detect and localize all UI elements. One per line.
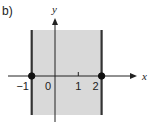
y-axis-arrow-icon (52, 18, 58, 25)
y-axis-label: y (51, 3, 57, 15)
strip-region-diagram: b) x y −1012 (0, 0, 157, 124)
x-axis-label: x (141, 70, 147, 82)
endpoint-dot (98, 73, 104, 79)
tick-label: 2 (93, 80, 99, 92)
tick-label: 1 (75, 80, 81, 92)
endpoint-dot (29, 73, 35, 79)
tick-label: −1 (16, 80, 29, 92)
part-label: b) (2, 4, 13, 18)
tick-label: 0 (45, 80, 51, 92)
x-axis-arrow-icon (130, 73, 137, 79)
shaded-strip-region (32, 30, 102, 115)
